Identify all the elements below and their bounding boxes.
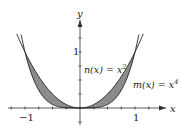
tick-label-pos1: 1 [133,112,139,123]
y-axis-label: y [76,8,83,19]
y-axis-arrow-icon [78,20,83,27]
tick-label-y1: 1 [73,46,79,57]
tick-label-neg1: −1 [19,112,34,123]
chart: x y −1 1 1 n(x) = x2 m(x) = x4 [0,0,182,136]
x-axis-arrow-icon [159,106,166,111]
x-axis-label: x [170,103,176,114]
n-function-label: n(x) = x2 [84,63,126,75]
m-function-label: m(x) = x4 [133,78,178,90]
y-axis [79,20,82,125]
